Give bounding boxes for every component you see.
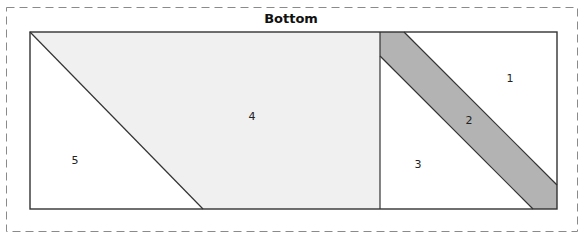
piece-label-4: 4	[249, 110, 256, 123]
piece-label-3: 3	[415, 158, 422, 171]
diagram-canvas	[0, 0, 582, 238]
piece-label-2: 2	[466, 114, 473, 127]
diagram-title: Bottom	[0, 11, 582, 26]
piece-label-5: 5	[72, 154, 79, 167]
piece-label-1: 1	[507, 72, 514, 85]
